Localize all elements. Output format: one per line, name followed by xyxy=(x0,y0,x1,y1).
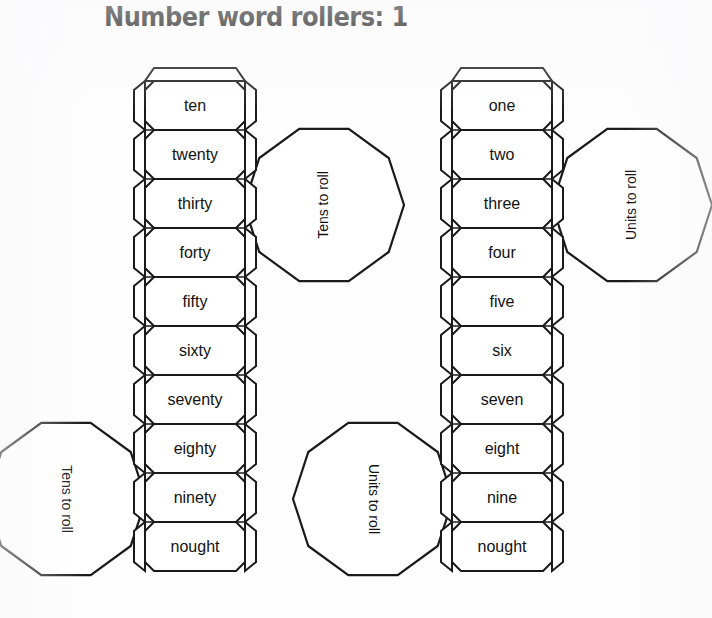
side-tab-right xyxy=(552,473,563,522)
cell-label: nine xyxy=(487,489,517,506)
end-caps-layer: Tens to rollUnits to rollTens to rollUni… xyxy=(0,129,712,575)
roller-cell: eight xyxy=(441,424,563,473)
side-tab-right xyxy=(245,130,256,179)
side-tab-right xyxy=(552,81,563,130)
roller-net-artwork: Tens to rollUnits to rollTens to rollUni… xyxy=(0,0,712,618)
side-tab-right xyxy=(552,179,563,228)
cell-label: four xyxy=(488,244,516,261)
side-tab-left xyxy=(441,375,452,424)
side-tab-left xyxy=(441,522,452,571)
roller-cell: three xyxy=(441,179,563,228)
side-tab-left xyxy=(441,228,452,277)
side-tab-right xyxy=(552,228,563,277)
roller-units: onetwothreefourfivesixseveneightninenoug… xyxy=(441,68,563,571)
side-tab-left xyxy=(134,473,145,522)
side-tab-right xyxy=(552,130,563,179)
cell-label: ten xyxy=(184,97,206,114)
cell-label: nought xyxy=(171,538,220,555)
roller-cell: sixty xyxy=(134,326,256,375)
side-tab-left xyxy=(134,130,145,179)
side-tab-right xyxy=(245,81,256,130)
side-tab-right xyxy=(245,228,256,277)
side-tab-right xyxy=(552,375,563,424)
cell-label: one xyxy=(489,97,516,114)
side-tab-left xyxy=(441,179,452,228)
cell-label: nought xyxy=(478,538,527,555)
cell-label: two xyxy=(490,146,515,163)
cell-label: forty xyxy=(179,244,210,261)
roller-cell: twenty xyxy=(134,130,256,179)
roller-cell: six xyxy=(441,326,563,375)
cell-label: ninety xyxy=(174,489,217,506)
side-tab-right xyxy=(552,326,563,375)
cell-label: thirty xyxy=(178,195,213,212)
glue-flap-top xyxy=(145,68,245,81)
roller-cell: four xyxy=(441,228,563,277)
side-tab-right xyxy=(245,375,256,424)
cell-label: eighty xyxy=(174,440,217,457)
side-tab-right xyxy=(245,277,256,326)
cell-label: fifty xyxy=(183,293,208,310)
roller-tens: tentwentythirtyfortyfiftysixtyseventyeig… xyxy=(134,68,256,571)
worksheet-page: Number word rollers: 1 Tens to rollUnits… xyxy=(0,0,712,618)
roller-cell: seven xyxy=(441,375,563,424)
roller-cell: five xyxy=(441,277,563,326)
side-tab-left xyxy=(134,81,145,130)
side-tab-right xyxy=(552,277,563,326)
end-cap-label: Units to roll xyxy=(623,170,639,240)
cell-label: seventy xyxy=(167,391,222,408)
cell-label: sixty xyxy=(179,342,211,359)
roller-cell: nine xyxy=(441,473,563,522)
side-tab-left xyxy=(134,375,145,424)
side-tab-left xyxy=(441,81,452,130)
side-tab-left xyxy=(134,179,145,228)
roller-cell: ninety xyxy=(134,473,256,522)
side-tab-left xyxy=(134,277,145,326)
roller-cell: two xyxy=(441,130,563,179)
roller-cell: fifty xyxy=(134,277,256,326)
roller-cell: nought xyxy=(441,522,563,571)
end-cap-units-cap-top: Units to roll xyxy=(552,129,712,281)
cell-label: seven xyxy=(481,391,524,408)
side-tab-left xyxy=(134,228,145,277)
roller-cell: forty xyxy=(134,228,256,277)
cell-label: twenty xyxy=(172,146,218,163)
side-tab-left xyxy=(441,424,452,473)
roller-cell: seventy xyxy=(134,375,256,424)
side-tab-left xyxy=(441,326,452,375)
side-tab-left xyxy=(441,130,452,179)
end-cap-tens-cap-bottom: Tens to roll xyxy=(0,423,146,575)
end-cap-units-cap-bottom: Units to roll xyxy=(293,423,453,575)
side-tab-right xyxy=(245,326,256,375)
side-tab-left xyxy=(441,473,452,522)
roller-cell: ten xyxy=(134,81,256,130)
end-cap-label: Units to roll xyxy=(366,464,382,534)
side-tab-right xyxy=(552,424,563,473)
side-tab-left xyxy=(134,326,145,375)
side-tab-right xyxy=(245,473,256,522)
cell-label: three xyxy=(484,195,521,212)
side-tab-right xyxy=(245,522,256,571)
roller-cell: thirty xyxy=(134,179,256,228)
glue-flap-top xyxy=(452,68,552,81)
end-cap-label: Tens to roll xyxy=(59,465,75,533)
side-tab-left xyxy=(134,424,145,473)
roller-cell: eighty xyxy=(134,424,256,473)
side-tab-left xyxy=(441,277,452,326)
side-tab-right xyxy=(245,179,256,228)
end-cap-label: Tens to roll xyxy=(315,171,331,239)
cell-label: six xyxy=(492,342,512,359)
cell-label: eight xyxy=(485,440,520,457)
side-tab-left xyxy=(134,522,145,571)
roller-cell: nought xyxy=(134,522,256,571)
roller-cell: one xyxy=(441,81,563,130)
end-cap-tens-cap-top: Tens to roll xyxy=(244,129,404,281)
side-tab-right xyxy=(245,424,256,473)
cell-label: five xyxy=(490,293,515,310)
side-tab-right xyxy=(552,522,563,571)
